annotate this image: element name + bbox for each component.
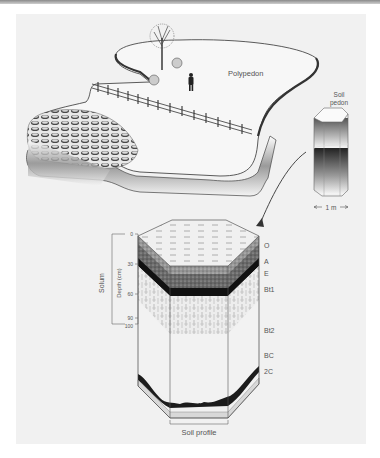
horizon-label-bt1: Bt1 <box>264 286 275 293</box>
soil-profile-label: Soil profile <box>181 428 216 437</box>
depth-tick-labels: 0 30 60 90 100 <box>125 231 134 329</box>
horizon-labels: O A E Bt1 Bt2 BC 2C <box>264 242 275 375</box>
polypedon-label: Polypedon <box>228 69 263 78</box>
horizon-label-bt2: Bt2 <box>264 327 275 334</box>
depth-tick-30: 30 <box>127 261 133 267</box>
soil-profile: Soil profile <box>138 220 259 437</box>
solum-label: Solum <box>98 273 105 293</box>
depth-tick-0: 0 <box>130 231 133 237</box>
horizon-label-a: A <box>264 258 269 265</box>
pedon-label-line1: Soil <box>334 91 345 98</box>
horizon-label-e: E <box>264 270 269 277</box>
depth-tick-60: 60 <box>127 291 133 297</box>
soil-pedon-column: Soil pedon 1 m <box>314 91 348 211</box>
depth-axis-label: Depth (cm) <box>116 268 122 298</box>
arrow-head-icon <box>256 218 264 227</box>
pedon-label-line2: pedon <box>330 99 348 107</box>
horizon-label-2c: 2C <box>264 368 273 375</box>
horizon-label-bc: BC <box>264 352 274 359</box>
soil-diagram: Polypedon Soil pedon 1 m <box>0 0 380 458</box>
horizon-label-o: O <box>264 242 270 249</box>
scale-label: 1 m <box>326 204 337 211</box>
depth-tick-100: 100 <box>125 323 134 329</box>
profile-bracket <box>170 420 228 424</box>
bush-icon <box>172 58 182 68</box>
bush-icon <box>149 75 159 85</box>
depth-tick-90: 90 <box>127 315 133 321</box>
